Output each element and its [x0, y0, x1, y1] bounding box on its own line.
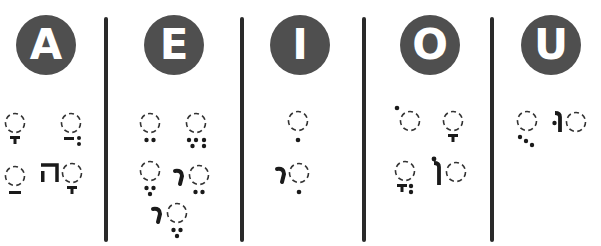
mark-segol: [139, 160, 163, 204]
column-divider-1: [104, 17, 108, 242]
mark-qamats-hatuf: [442, 110, 466, 150]
vowel-label-u: U: [534, 24, 568, 66]
mark-holam-vav: [430, 155, 476, 195]
vowel-circle-a: A: [16, 15, 76, 75]
mark-hataf-patah: [60, 112, 90, 154]
vowel-circle-u: U: [521, 15, 581, 75]
vowel-circle-i: I: [270, 15, 330, 75]
mark-hiriq: [287, 110, 311, 146]
mark-qamats-he: [38, 160, 94, 204]
mark-hataf-qamats: [394, 160, 426, 202]
vowel-circle-e: E: [144, 15, 204, 75]
mark-tsere: [139, 112, 163, 148]
mark-patah: [4, 165, 28, 201]
mark-segol-yod: [150, 200, 194, 246]
mark-qamats: [4, 112, 28, 152]
mark-qubuts: [516, 110, 546, 154]
mark-shuruq: [551, 110, 597, 140]
vowel-circle-o: O: [400, 15, 460, 75]
mark-hiriq-yod: [274, 160, 318, 200]
mark-holam: [394, 104, 426, 140]
vowel-label-e: E: [160, 24, 189, 66]
vowel-label-o: O: [412, 24, 448, 66]
vowel-label-a: A: [30, 24, 63, 66]
mark-tsere-yod: [172, 162, 216, 202]
column-divider-4: [490, 17, 494, 242]
column-divider-3: [362, 17, 366, 242]
mark-hataf-segol: [185, 112, 215, 154]
column-divider-2: [240, 17, 244, 242]
vowel-label-i: I: [292, 24, 308, 66]
